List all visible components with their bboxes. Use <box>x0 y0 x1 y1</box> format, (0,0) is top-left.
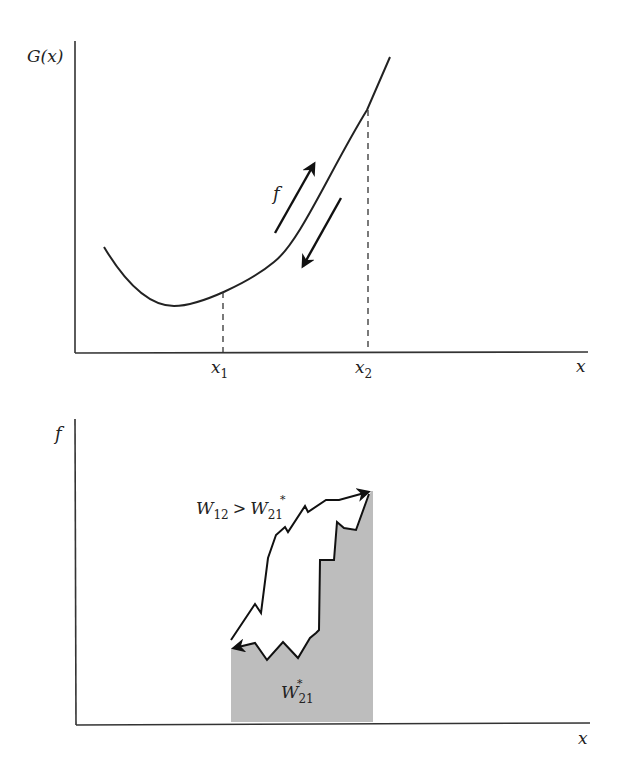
pull-arrow-up-icon <box>275 164 314 233</box>
forward-rhs-star: * <box>280 493 286 506</box>
bottom-panel: f x W12>W21 * W21 * <box>53 419 590 748</box>
forward-work-inequality-label: W12>W21 <box>196 498 283 522</box>
bottom-x-axis-label: x <box>578 728 588 748</box>
diagram-canvas: G(x) x x1 x2 f f x W12>W21 * W21 * <box>0 0 620 783</box>
reverse-star: * <box>297 677 303 690</box>
free-energy-curve <box>104 57 390 306</box>
bottom-y-axis-label: f <box>53 423 65 444</box>
bottom-x-axis <box>76 723 590 725</box>
top-panel: G(x) x x1 x2 f <box>27 41 588 381</box>
x2-label: x2 <box>355 357 372 381</box>
force-label: f <box>271 183 283 204</box>
relax-arrow-down-icon <box>303 198 341 266</box>
x1-label: x1 <box>211 357 228 381</box>
top-y-axis-label: G(x) <box>27 46 63 66</box>
top-x-axis-label: x <box>576 356 586 376</box>
bottom-y-axis <box>75 419 76 725</box>
top-x-axis <box>75 352 588 353</box>
